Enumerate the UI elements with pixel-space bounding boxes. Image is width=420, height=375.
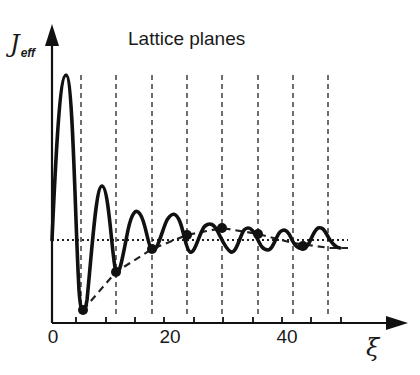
chart: Lattice planes Jeff ξ 0 20 40: [0, 0, 420, 375]
lattice-plane-lines: [81, 75, 328, 318]
oscillating-curve: [52, 75, 340, 312]
y-axis-label-subscript: eff: [21, 46, 35, 60]
y-axis-label: Jeff: [10, 30, 35, 60]
y-axis-label-main: J: [10, 30, 20, 58]
y-axis-arrow-icon: [45, 24, 59, 46]
chart-canvas: [0, 0, 420, 375]
x-axis-arrow-icon: [386, 316, 408, 330]
chart-title: Lattice planes: [128, 28, 245, 50]
x-tick-label-40: 40: [276, 326, 297, 348]
x-tick-label-20: 20: [159, 326, 180, 348]
x-axis-label: ξ: [366, 334, 379, 362]
x-tick-label-0: 0: [48, 326, 59, 348]
